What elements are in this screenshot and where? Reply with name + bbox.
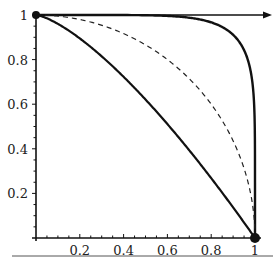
x-tick-label: 0.6 bbox=[157, 243, 178, 258]
inner-curve bbox=[36, 15, 255, 238]
y-tick-label: 0.4 bbox=[7, 142, 28, 157]
y-tick-label: 0.2 bbox=[7, 186, 28, 201]
chart: 0.20.40.60.810.20.40.60.81 bbox=[0, 0, 273, 271]
y-tick-label: 1 bbox=[20, 8, 28, 23]
y-tick-label: 0.6 bbox=[7, 97, 28, 112]
dashed-circle-curve bbox=[36, 15, 255, 238]
endpoint-marker bbox=[250, 233, 260, 243]
x-tick-label: 0.2 bbox=[69, 243, 90, 258]
endpoint-marker bbox=[32, 11, 40, 19]
axes: 0.20.40.60.810.20.40.60.81 bbox=[7, 8, 273, 258]
x-tick-label: 1 bbox=[251, 243, 259, 258]
outer-curve bbox=[36, 15, 255, 238]
arrow-head-icon bbox=[263, 12, 272, 19]
y-tick-label: 0.8 bbox=[7, 53, 28, 68]
curves bbox=[32, 11, 260, 243]
x-tick-label: 0.8 bbox=[201, 243, 222, 258]
x-tick-label: 0.4 bbox=[113, 243, 134, 258]
